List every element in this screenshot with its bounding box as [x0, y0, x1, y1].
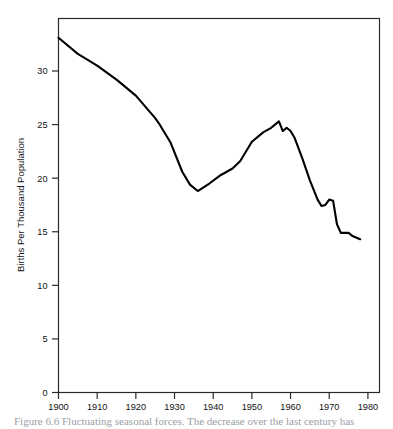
x-tick-label: 1980 [358, 402, 378, 412]
figure-container: 051015202530 190019101920193019401950196… [0, 0, 393, 429]
plot-frame [59, 19, 380, 393]
x-tick-label: 1900 [48, 402, 68, 412]
y-tick-label: 0 [42, 388, 47, 398]
birth-rate-line-chart: 051015202530 190019101920193019401950196… [0, 0, 393, 429]
y-tick-label: 10 [37, 281, 47, 291]
y-tick-label: 30 [37, 66, 47, 76]
y-tick-label: 20 [37, 174, 47, 184]
y-tick-label: 5 [42, 334, 47, 344]
x-tick-label: 1920 [126, 402, 146, 412]
x-tick-label: 1910 [87, 402, 107, 412]
x-tick-label: 1960 [280, 402, 300, 412]
x-tick-label: 1940 [203, 402, 223, 412]
figure-caption: Figure 6.6 Fluctuating seasonal forces. … [14, 415, 386, 428]
y-tick-label: 25 [37, 120, 47, 130]
y-axis-title: Births Per Thousand Population [15, 138, 26, 272]
x-tick-label: 1930 [164, 402, 184, 412]
x-axis-ticks: 190019101920193019401950196019701980 [48, 393, 378, 413]
x-tick-label: 1950 [242, 402, 262, 412]
y-axis-ticks: 051015202530 [37, 66, 58, 397]
y-tick-label: 15 [37, 227, 47, 237]
x-tick-label: 1970 [319, 402, 339, 412]
